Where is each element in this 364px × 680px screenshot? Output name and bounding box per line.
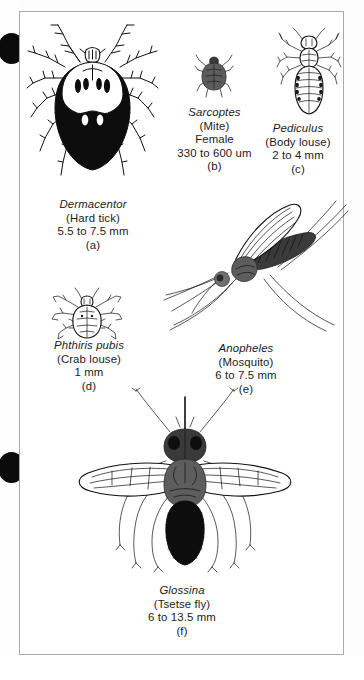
plate-frame: Dermacentor (Hard tick) 5.5 to 7.5 mm (a… <box>19 11 344 655</box>
common-name: (Body louse) <box>252 136 344 150</box>
panel-letter: (f) <box>123 625 241 639</box>
figure-page: Dermacentor (Hard tick) 5.5 to 7.5 mm (a… <box>0 0 364 680</box>
genus-name: Sarcoptes <box>172 106 257 120</box>
caption-glossina: Glossina (Tsetse fly) 6 to 13.5 mm (f) <box>123 584 241 638</box>
body-louse-illustration <box>276 26 342 118</box>
genus-name: Glossina <box>123 584 241 598</box>
caption-dermacentor: Dermacentor (Hard tick) 5.5 to 7.5 mm (a… <box>33 198 153 252</box>
crab-louse-illustration <box>50 285 124 345</box>
genus-name: Dermacentor <box>33 198 153 212</box>
size-range: 2 to 4 mm <box>252 149 344 163</box>
common-name: (Crab louse) <box>30 353 148 367</box>
common-name: (Hard tick) <box>33 212 153 226</box>
size-range: 330 to 600 um <box>172 147 257 161</box>
size-range: 6 to 13.5 mm <box>123 611 241 625</box>
common-name: (Mite) <box>172 120 257 134</box>
tsetse-fly-illustration <box>70 387 300 577</box>
common-name: (Mosquito) <box>192 356 300 370</box>
genus-name: Anopheles <box>192 342 300 356</box>
mite-illustration <box>194 50 234 100</box>
panel-letter: (b) <box>172 160 257 174</box>
mosquito-illustration <box>158 197 348 347</box>
size-range: 5.5 to 7.5 mm <box>33 225 153 239</box>
sex-label: Female <box>172 133 257 147</box>
caption-phthiris: Phthiris pubis (Crab louse) 1 mm (d) <box>30 339 148 393</box>
hard-tick-illustration <box>25 20 160 200</box>
common-name: (Tsetse fly) <box>123 598 241 612</box>
scan-left-margin <box>0 0 19 680</box>
size-range: 1 mm <box>30 366 148 380</box>
genus-name: Phthiris pubis <box>30 339 148 353</box>
caption-sarcoptes: Sarcoptes (Mite) Female 330 to 600 um (b… <box>172 106 257 174</box>
panel-letter: (a) <box>33 239 153 253</box>
genus-name: Pediculus <box>252 122 344 136</box>
scan-bottom-margin <box>0 655 364 680</box>
size-range: 6 to 7.5 mm <box>192 369 300 383</box>
caption-pediculus: Pediculus (Body louse) 2 to 4 mm (c) <box>252 122 344 176</box>
panel-letter: (c) <box>252 163 344 177</box>
